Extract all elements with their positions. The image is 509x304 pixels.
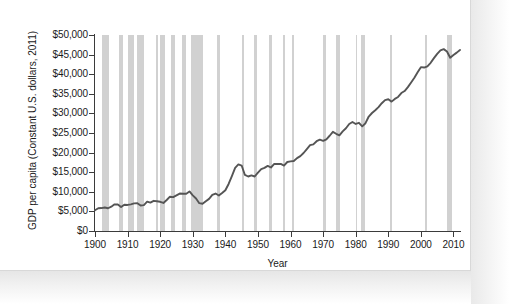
y-tick-label: $35,000 [26, 88, 88, 99]
screenshot-page: GDP per capita (Constant U.S. dollars, 2… [0, 0, 509, 304]
x-tick-mark [453, 232, 454, 237]
y-tick-label: $45,000 [26, 49, 88, 60]
y-tick-mark [89, 94, 95, 95]
y-tick-label: $15,000 [26, 166, 88, 177]
gdp-per-capita-line-chart: GDP per capita (Constant U.S. dollars, 2… [0, 0, 470, 270]
x-tick-mark [323, 232, 324, 237]
gdp-series-line [95, 35, 460, 231]
y-tick-mark [89, 74, 95, 75]
y-tick-label: $25,000 [26, 127, 88, 138]
figure-card: GDP per capita (Constant U.S. dollars, 2… [0, 0, 471, 271]
x-tick-mark [421, 232, 422, 237]
y-axis-tick-labels: $0$5,000$10,000$15,000$20,000$25,000$30,… [22, 0, 88, 270]
x-tick-label: 2010 [433, 239, 473, 250]
x-tick-mark [193, 232, 194, 237]
x-tick-mark [291, 232, 292, 237]
y-tick-label: $0 [26, 225, 88, 236]
x-tick-mark [225, 232, 226, 237]
y-tick-mark [89, 35, 95, 36]
y-tick-label: $50,000 [26, 29, 88, 40]
y-tick-mark [89, 231, 95, 232]
y-tick-mark [89, 211, 95, 212]
x-tick-mark [388, 232, 389, 237]
x-axis-title: Year [95, 258, 460, 269]
x-tick-mark [95, 232, 96, 237]
y-tick-label: $5,000 [26, 205, 88, 216]
y-tick-label: $10,000 [26, 186, 88, 197]
x-axis-line [94, 231, 461, 232]
page-edge-shadow-bottom [0, 271, 471, 304]
y-tick-mark [89, 192, 95, 193]
y-tick-label: $30,000 [26, 107, 88, 118]
gdp-series-polyline [95, 49, 460, 210]
page-edge-shadow-right [471, 0, 509, 304]
y-tick-label: $40,000 [26, 68, 88, 79]
x-tick-mark [128, 232, 129, 237]
x-tick-mark [160, 232, 161, 237]
x-tick-mark [356, 232, 357, 237]
y-tick-label: $20,000 [26, 147, 88, 158]
x-tick-mark [258, 232, 259, 237]
y-tick-mark [89, 172, 95, 173]
y-tick-mark [89, 133, 95, 134]
plot-area [95, 35, 460, 231]
y-tick-mark [89, 153, 95, 154]
y-tick-mark [89, 55, 95, 56]
y-tick-mark [89, 113, 95, 114]
